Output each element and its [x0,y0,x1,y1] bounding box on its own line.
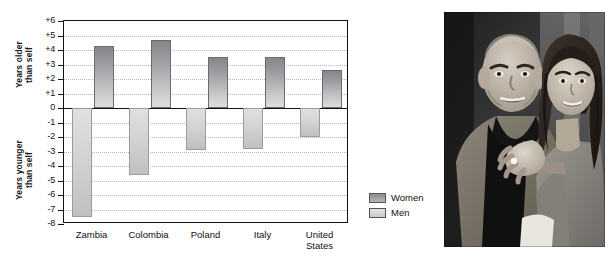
legend-label-men: Men [391,207,409,218]
figure: Years older than self Years younger than… [0,0,612,257]
bar-italy-men [243,108,263,149]
bar-colombia-men [129,108,149,175]
bar-chart: Years older than self Years younger than… [0,0,430,257]
bar-united-states-men [300,108,320,137]
y-tick-label: +4 [29,44,55,54]
men-swatch-icon [369,208,386,218]
y-tick-label: +3 [29,59,55,69]
y-tick-label: -1 [29,117,55,127]
x-tick-label: UnitedStates [306,229,333,251]
y-tick-label: +2 [29,73,55,83]
y-tick-mark [58,224,64,225]
y-tick-label: +5 [29,30,55,40]
legend-label-women: Women [391,192,424,203]
x-tick-label: Italy [254,229,271,240]
y-tick-label: +6 [29,15,55,25]
x-tick-label: Zambia [76,229,108,240]
photograph [444,12,605,247]
y-tick-label: -6 [29,189,55,199]
y-tick-label: -7 [29,204,55,214]
y-tick-label: -3 [29,146,55,156]
y-axis-label-lower-line1: Years younger [14,140,24,200]
photo-image [444,12,605,247]
y-tick-label: -4 [29,160,55,170]
y-tick-label: -5 [29,175,55,185]
x-tick-label: Colombia [128,229,168,240]
bar-zambia-women [94,46,114,108]
bar-colombia-women [151,40,171,108]
bar-italy-women [265,57,285,108]
y-tick-label: -2 [29,131,55,141]
y-tick-label: 0 [29,102,55,112]
bar-united-states-women [322,70,342,108]
women-swatch-icon [369,193,386,203]
x-tick-label: Poland [191,229,221,240]
y-axis-label-upper-line1: Years older [14,42,24,89]
bar-poland-women [208,57,228,108]
y-tick-label: +1 [29,88,55,98]
bar-zambia-men [72,108,92,217]
plot-area [63,20,348,223]
legend-item-men: Men [369,207,424,218]
y-tick-label: -8 [29,218,55,228]
bars-layer [64,21,347,222]
legend: Women Men [369,192,424,222]
legend-item-women: Women [369,192,424,203]
bar-poland-men [186,108,206,150]
